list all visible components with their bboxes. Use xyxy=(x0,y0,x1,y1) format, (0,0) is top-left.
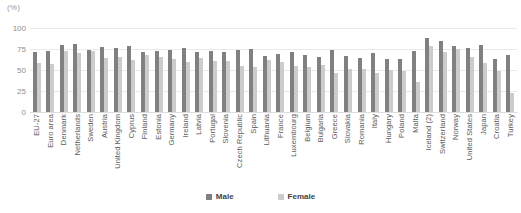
bar-group xyxy=(192,28,206,112)
bar-female xyxy=(375,73,379,112)
bar-female xyxy=(172,59,176,112)
bar-female xyxy=(389,70,393,112)
x-axis-label: Finland xyxy=(138,114,152,186)
bar-group xyxy=(30,28,44,112)
bar-female xyxy=(483,63,487,112)
x-axis-label: Bulgaria xyxy=(314,114,328,186)
bar-group xyxy=(287,28,301,112)
x-axis-label: Belgium xyxy=(301,114,315,186)
x-axis-label: Spain xyxy=(247,114,261,186)
bar-female xyxy=(145,55,149,112)
bar-female xyxy=(91,51,95,112)
plot-area xyxy=(30,28,517,112)
bar-female xyxy=(510,93,514,112)
bar-group xyxy=(436,28,450,112)
bar-female xyxy=(64,51,68,112)
x-axis-label: Estonia xyxy=(152,114,166,186)
bar-group xyxy=(219,28,233,112)
bar-female xyxy=(50,64,54,112)
x-axis-label: Sweden xyxy=(84,114,98,186)
bar-female xyxy=(348,69,352,112)
y-axis-tick: 25 xyxy=(2,87,26,96)
bar-group xyxy=(314,28,328,112)
bar-group xyxy=(341,28,355,112)
x-axis-label: United Kingdom xyxy=(111,114,125,186)
bar-female xyxy=(470,57,474,112)
chart-legend: Male Female xyxy=(0,192,521,201)
x-axis-label: France xyxy=(274,114,288,186)
bar-female xyxy=(362,69,366,112)
x-axis-label: Lithuania xyxy=(260,114,274,186)
x-axis-label: Switzerland xyxy=(436,114,450,186)
bar-group xyxy=(274,28,288,112)
x-axis-category-labels: EU-27Euro areaDenmarkNetherlandsSwedenAu… xyxy=(30,114,517,186)
x-axis-label: Luxembourg xyxy=(287,114,301,186)
bar-female xyxy=(77,53,81,112)
x-axis-label: Germany xyxy=(165,114,179,186)
y-axis-tick: 75 xyxy=(2,45,26,54)
bar-group xyxy=(504,28,518,112)
bar-group xyxy=(422,28,436,112)
x-axis-label: Portugal xyxy=(206,114,220,186)
x-axis-label: Euro area xyxy=(44,114,58,186)
bar-group xyxy=(395,28,409,112)
bar-female xyxy=(497,71,501,112)
y-axis-tick: 50 xyxy=(2,66,26,75)
bar-female xyxy=(416,82,420,112)
bar-group xyxy=(247,28,261,112)
bar-female xyxy=(199,58,203,112)
bar-female xyxy=(429,46,433,112)
bar-female xyxy=(402,71,406,112)
x-axis-label: Croatia xyxy=(490,114,504,186)
x-axis-label: Malta xyxy=(409,114,423,186)
bar-female xyxy=(104,58,108,112)
legend-swatch-female-icon xyxy=(278,194,284,200)
x-axis-label: Norway xyxy=(449,114,463,186)
bar-group xyxy=(98,28,112,112)
x-axis-label: Romania xyxy=(355,114,369,186)
bar-group xyxy=(260,28,274,112)
bar-female xyxy=(37,63,41,112)
bar-group xyxy=(152,28,166,112)
bar-female xyxy=(294,66,298,112)
bar-female xyxy=(240,66,244,112)
y-axis-tick: 0 xyxy=(2,108,26,117)
bar-female xyxy=(226,61,230,112)
bar-group xyxy=(179,28,193,112)
x-axis-label: Greece xyxy=(328,114,342,186)
x-axis-label: Austria xyxy=(98,114,112,186)
gridline xyxy=(30,112,517,113)
bar-female xyxy=(280,62,284,112)
legend-item-female[interactable]: Female xyxy=(278,192,316,201)
bar-group xyxy=(84,28,98,112)
bar-group xyxy=(57,28,71,112)
legend-item-male[interactable]: Male xyxy=(206,192,234,201)
bar-group xyxy=(165,28,179,112)
x-axis-label: Slovakia xyxy=(341,114,355,186)
bar-groups xyxy=(30,28,517,112)
x-axis-label: United States xyxy=(463,114,477,186)
x-axis-label: Latvia xyxy=(192,114,206,186)
bar-group xyxy=(355,28,369,112)
x-axis-label: EU-27 xyxy=(30,114,44,186)
x-axis-label: Cyprus xyxy=(125,114,139,186)
bar-group xyxy=(71,28,85,112)
x-axis-label: Poland xyxy=(395,114,409,186)
bar-group xyxy=(449,28,463,112)
unit-label: (%) xyxy=(7,3,20,12)
bar-group xyxy=(382,28,396,112)
bar-group xyxy=(409,28,423,112)
bar-female xyxy=(456,49,460,112)
bar-female xyxy=(253,67,257,112)
bar-female xyxy=(267,60,271,112)
bar-group xyxy=(206,28,220,112)
x-axis-label: Turkey xyxy=(504,114,518,186)
legend-label-female: Female xyxy=(288,192,316,201)
legend-swatch-male-icon xyxy=(206,194,212,200)
employment-rate-chart: (%) 0255075100 EU-27Euro areaDenmarkNeth… xyxy=(0,0,521,213)
x-axis-label: Ireland xyxy=(179,114,193,186)
bar-female xyxy=(159,57,163,112)
x-axis-label: Czech Republic xyxy=(233,114,247,186)
bar-female xyxy=(186,62,190,112)
x-axis-label: Netherlands xyxy=(71,114,85,186)
